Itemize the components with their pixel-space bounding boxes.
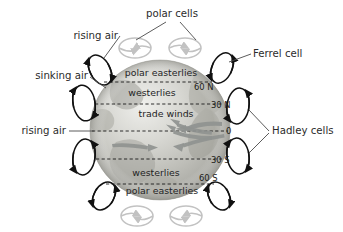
leader-hadley-lower — [249, 133, 269, 153]
polar-cell-bottom-left — [121, 206, 153, 226]
label-westerlies-south: westerlies — [132, 167, 180, 178]
label-rising-air-mid: rising air — [21, 125, 66, 136]
diagram-canvas: polar cells rising air Ferrel cell sinki… — [0, 0, 343, 232]
label-trade-winds: trade winds — [138, 108, 193, 119]
leader-polar-cells-right — [180, 22, 196, 40]
label-polar-easterlies-south: polar easterlies — [126, 185, 199, 196]
label-hadley-cells: Hadley cells — [272, 125, 334, 136]
polar-cell-top-left — [119, 38, 151, 58]
label-lat-60s: 60 S — [199, 173, 218, 183]
label-lat-30s: 30 S — [211, 155, 230, 165]
polar-cell-lower-right — [203, 178, 235, 214]
polar-cell-top-right — [169, 38, 201, 58]
label-rising-air-top: rising air — [73, 30, 118, 41]
label-ferrel-cell: Ferrel cell — [253, 48, 302, 59]
label-sinking-air: sinking air — [35, 70, 89, 81]
leader-polar-cells-left — [136, 22, 166, 40]
label-lat-30n: 30 N — [211, 100, 231, 110]
hadley-cell-left — [71, 138, 98, 177]
label-polar-easterlies-north: polar easterlies — [125, 67, 198, 78]
polar-cell-bottom-right — [170, 206, 202, 226]
label-polar-cells: polar cells — [146, 8, 198, 19]
atmospheric-circulation-diagram: polar cells rising air Ferrel cell sinki… — [0, 0, 343, 232]
leader-sinking-air — [90, 77, 106, 88]
ferrel-cell-left — [70, 83, 98, 122]
label-lat-60n: 60 N — [194, 82, 214, 92]
leader-hadley-upper — [249, 110, 269, 131]
label-westerlies-north: westerlies — [128, 87, 176, 98]
label-lat-0: 0 — [226, 126, 231, 136]
